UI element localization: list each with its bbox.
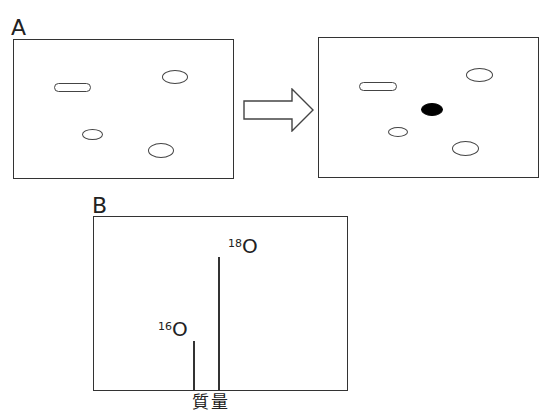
peak-18o [218,257,220,390]
spot [388,127,408,137]
mass-number-16: 16 [158,320,172,333]
spot [148,143,174,158]
element-symbol: O [172,317,188,341]
spot [359,82,397,91]
peak-16o [193,341,195,390]
spot-filled [421,103,443,116]
mass-number-18: 18 [228,237,242,250]
x-axis-label: 質量 [192,394,230,411]
peak-label-16o: 16O [158,319,188,339]
mass-spectrum-box [93,216,348,391]
peak-label-18o: 18O [228,236,258,256]
spot [452,141,479,156]
spot [82,129,103,140]
panel-b-label: B [92,195,107,217]
element-symbol: O [242,234,258,258]
arrow-right-icon [243,88,315,132]
gel-before-box [13,39,234,179]
spot [162,70,188,84]
spot [54,83,91,92]
spot [466,68,493,82]
panel-a-label: A [11,17,26,39]
